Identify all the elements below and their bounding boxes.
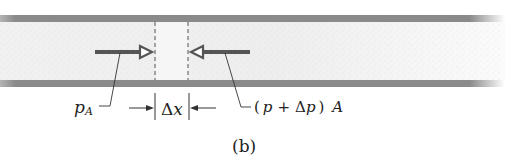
fluid-element [156,22,188,80]
label-left-force: pA [74,97,93,118]
label-element-length: Δx [161,99,183,119]
pipe-element-diagram: pA Δx (p+Δp)A (b) [0,0,514,166]
panel-label: (b) [232,136,256,156]
pipe-wall-top [0,15,505,22]
label-right-force: (p+Δp)A [254,98,343,116]
pipe-wall-bottom [0,80,505,87]
